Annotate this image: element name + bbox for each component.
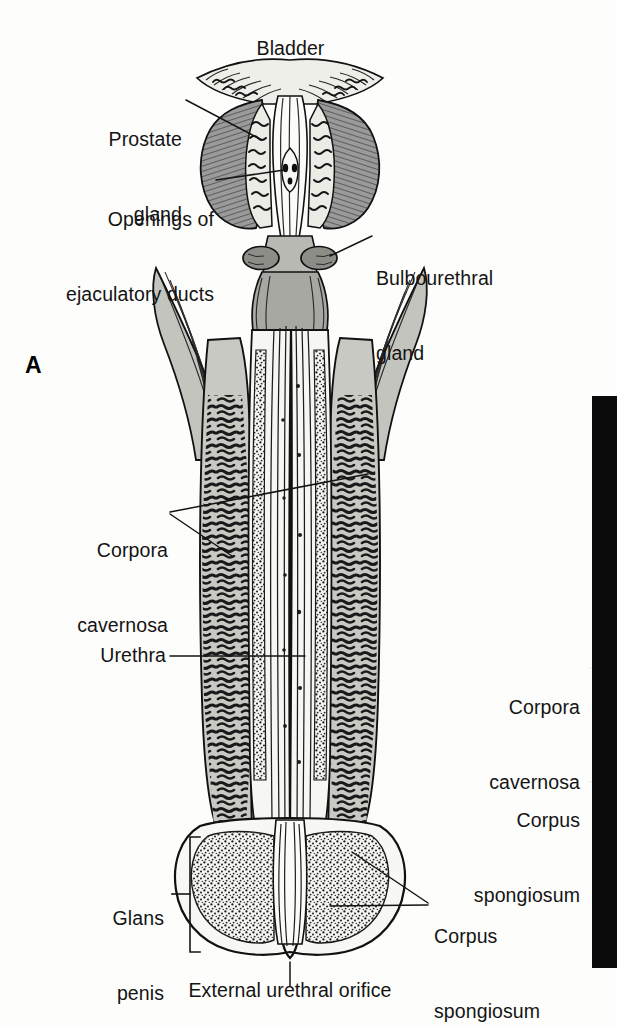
- label-corpora-cavernosa-left-line2: cavernosa: [14, 613, 168, 638]
- label-glans-penis: Glans penis: [24, 856, 164, 1026]
- prostatic-urethra: [273, 96, 307, 238]
- label-corpus-spongiosum-right: Corpus spongiosum: [420, 758, 580, 933]
- label-corpus-spongiosum-bottom-line2: spongiosum: [434, 999, 604, 1024]
- bulbourethral-gland-left: [243, 247, 279, 270]
- urethra-lumen: [289, 330, 292, 832]
- label-glans-penis-line1: Glans: [24, 906, 164, 931]
- bulbourethral-gland-right: [301, 247, 337, 270]
- label-corpora-cavernosa-left: Corpora cavernosa: [14, 488, 168, 663]
- bulbourethral-region: [243, 236, 337, 336]
- label-bulbourethral-line1: Bulbourethral: [376, 266, 556, 291]
- panel-letter-a: A: [25, 352, 42, 379]
- label-bulbourethral-gland: Bulbourethral gland: [376, 216, 556, 391]
- label-openings-line2: ejaculatory ducts: [8, 282, 214, 307]
- label-corpora-cavernosa-right-line1: Corpora: [420, 695, 580, 720]
- ejaculatory-duct-opening-left: [283, 164, 288, 172]
- label-prostate-gland-line1: Prostate: [30, 127, 182, 152]
- label-corpora-cavernosa-left-line1: Corpora: [14, 538, 168, 563]
- glans-penis: [175, 818, 405, 958]
- label-urethra: Urethra: [48, 643, 166, 668]
- label-corpus-spongiosum-right-line1: Corpus: [420, 808, 580, 833]
- label-bladder: Bladder: [228, 36, 353, 61]
- label-openings-ejaculatory-ducts: Openings of ejaculatory ducts: [8, 157, 214, 332]
- corpus-spongiosum-shaft: [249, 326, 332, 840]
- label-corpus-spongiosum-right-line2: spongiosum: [420, 883, 580, 908]
- label-openings-line1: Openings of: [8, 207, 214, 232]
- ejaculatory-duct-opening-right: [292, 164, 297, 172]
- label-bulbourethral-line2: gland: [376, 341, 556, 366]
- label-external-urethral-orifice: External urethral orifice: [150, 978, 430, 1003]
- label-glans-penis-line2: penis: [24, 981, 164, 1006]
